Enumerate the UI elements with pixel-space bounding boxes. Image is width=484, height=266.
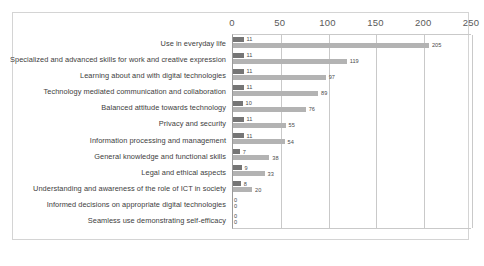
- bar-series-1: [233, 149, 240, 154]
- bar-value-label: 54: [288, 139, 294, 145]
- bar-value-label: 8: [244, 181, 247, 187]
- x-axis-tick-labels: 050100150200250: [13, 13, 470, 35]
- category-label: Technology mediated communication and co…: [44, 87, 227, 96]
- bar-value-label: 11: [247, 84, 253, 90]
- bar-series-1: [233, 133, 244, 138]
- bar-value-label: 11: [247, 68, 253, 74]
- bar-value-label: 11: [247, 116, 253, 122]
- gridline: [472, 35, 473, 228]
- bar-series-2: [233, 91, 318, 96]
- bar-series-1: [233, 37, 244, 42]
- category-label: Balanced attitude towards technology: [101, 103, 226, 112]
- bar-value-label: 7: [243, 149, 246, 155]
- bar-series-1: [233, 165, 242, 170]
- x-tick-label: 100: [319, 17, 335, 28]
- bar-value-label: 20: [255, 187, 261, 193]
- bar-series-1: [233, 181, 241, 186]
- bar-series-2: [233, 139, 285, 144]
- bar-value-label: 33: [268, 171, 274, 177]
- bar-series-2: [233, 187, 252, 192]
- bar-series-1: [233, 101, 243, 106]
- bar-value-label: 89: [321, 90, 327, 96]
- category-label: Informed decisions on appropriate digita…: [47, 199, 226, 208]
- bar-series-2: [233, 43, 429, 48]
- bar-value-label: 11: [247, 133, 253, 139]
- category-label: General knowledge and functional skills: [94, 151, 226, 160]
- bar-series-1: [233, 85, 244, 90]
- x-tick-label: 200: [415, 17, 431, 28]
- bar-value-label: 11: [247, 52, 253, 58]
- bar-value-label: 9: [245, 165, 248, 171]
- bar-value-label: 38: [272, 155, 278, 161]
- bar-value-label: 11: [247, 36, 253, 42]
- bar-value-label: 76: [309, 106, 315, 112]
- category-label: Information processing and management: [90, 135, 226, 144]
- x-tick-label: 150: [367, 17, 383, 28]
- y-axis-category-labels: Use in everyday lifeSpecialized and adva…: [13, 34, 230, 229]
- bar-series-2: [233, 155, 269, 160]
- bar-value-label: 97: [329, 74, 335, 80]
- bar-value-label: 0: [234, 219, 237, 225]
- bar-series-2: [233, 123, 286, 128]
- bars-layer: 1120511119119711891076115511547389338200…: [233, 35, 471, 228]
- bar-value-label: 0: [234, 203, 237, 209]
- bar-value-label: 55: [289, 122, 295, 128]
- category-label: Learning about and with digital technolo…: [80, 71, 226, 80]
- bar-series-2: [233, 59, 347, 64]
- x-tick-label: 0: [229, 17, 234, 28]
- bar-series-2: [233, 107, 306, 112]
- bar-series-1: [233, 69, 244, 74]
- bar-series-1: [233, 117, 244, 122]
- bar-value-label: 119: [350, 58, 359, 64]
- bar-value-label: 10: [246, 100, 252, 106]
- category-label: Seamless use demonstrating self-efficacy: [88, 215, 226, 224]
- category-label: Legal and ethical aspects: [141, 167, 226, 176]
- x-tick-label: 50: [274, 17, 285, 28]
- chart-frame: 050100150200250 Use in everyday lifeSpec…: [12, 12, 469, 240]
- x-tick-label: 250: [463, 17, 479, 28]
- category-label: Use in everyday life: [161, 39, 227, 48]
- category-label: Understanding and awareness of the role …: [33, 183, 226, 192]
- bar-series-2: [233, 75, 326, 80]
- category-label: Privacy and security: [159, 119, 226, 128]
- bar-series-1: [233, 53, 244, 58]
- category-label: Specialized and advanced skills for work…: [10, 55, 226, 64]
- bar-series-2: [233, 171, 265, 176]
- bar-value-label: 205: [432, 42, 441, 48]
